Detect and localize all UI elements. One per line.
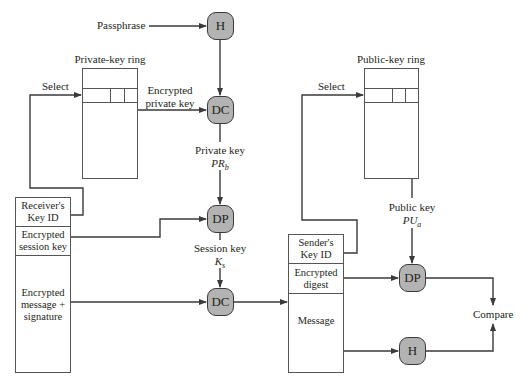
private-key-ring-selected-row: [83, 88, 137, 103]
select-left-label: Select: [42, 80, 69, 93]
pu-symbol: PU: [403, 214, 418, 226]
decrypt-conventional-node-message: DC: [207, 288, 234, 316]
select-right-label: Select: [318, 80, 345, 93]
encrypted-digest-field: Encrypteddigest: [289, 264, 343, 294]
compare-label: Compare: [473, 308, 513, 321]
decrypted-message-box: Sender'sKey ID Encrypteddigest Message: [288, 234, 344, 373]
received-message-box: Receiver'sKey ID Encryptedsession key En…: [15, 197, 71, 373]
session-key-label: Session key Ks: [194, 242, 246, 272]
field-line: Key ID: [21, 212, 64, 224]
private-key-ring-label: Private-key ring: [74, 53, 145, 66]
public-key-symbol: PUa: [389, 214, 436, 231]
passphrase-label: Passphrase: [97, 19, 145, 32]
k-subscript: s: [222, 261, 225, 270]
receivers-key-id-field: Receiver'sKey ID: [16, 198, 70, 227]
field-line: Encrypted: [294, 267, 337, 279]
pgp-reception-diagram: Passphrase Private-key ring Public-key r…: [0, 0, 531, 383]
private-key-symbol: PRb: [195, 157, 245, 174]
field-line: Receiver's: [21, 200, 64, 212]
pr-symbol: PR: [211, 157, 224, 169]
field-line: Message: [298, 315, 335, 327]
decrypt-conventional-node-private-key: DC: [207, 96, 234, 124]
session-key-symbol: Ks: [194, 255, 246, 272]
private-key-text: Private key: [195, 144, 245, 157]
field-line: digest: [294, 279, 337, 291]
senders-key-id-field: Sender'sKey ID: [289, 235, 343, 264]
private-key-label: Private key PRb: [195, 144, 245, 174]
hash-node-message: H: [399, 337, 426, 365]
field-line: session key: [19, 241, 67, 253]
public-key-ring-label: Public-key ring: [357, 53, 425, 66]
ring-column-divider: [392, 89, 393, 102]
pu-subscript: a: [417, 220, 421, 229]
ring-column-divider: [124, 89, 125, 102]
private-key-ring: [82, 68, 138, 179]
public-key-label: Public key PUa: [389, 201, 436, 231]
encrypted-private-key-label: Encrypted private key: [145, 84, 194, 110]
field-line: Encrypted: [21, 287, 65, 299]
ring-column-divider: [110, 89, 111, 102]
pr-subscript: b: [225, 163, 229, 172]
encrypted-session-key-field: Encryptedsession key: [16, 227, 70, 256]
field-line: Encrypted: [19, 229, 67, 241]
decrypt-public-node-digest: DP: [399, 264, 426, 292]
field-line: Key ID: [298, 249, 333, 261]
hash-node-passphrase: H: [207, 12, 234, 40]
field-line: Sender's: [298, 237, 333, 249]
message-field: Message: [289, 294, 343, 372]
public-key-text: Public key: [389, 201, 436, 214]
public-key-ring-selected-row: [365, 88, 418, 103]
encrypted-private-key-line1: Encrypted: [145, 84, 194, 97]
public-key-ring: [364, 68, 419, 179]
encrypted-private-key-line2: private key: [145, 97, 194, 110]
field-line: signature: [21, 311, 65, 323]
ring-column-divider: [405, 89, 406, 102]
session-key-text: Session key: [194, 242, 246, 255]
decrypt-public-node-session-key: DP: [207, 205, 234, 233]
encrypted-message-signature-field: Encryptedmessage +signature: [16, 256, 70, 372]
field-line: message +: [21, 299, 65, 311]
